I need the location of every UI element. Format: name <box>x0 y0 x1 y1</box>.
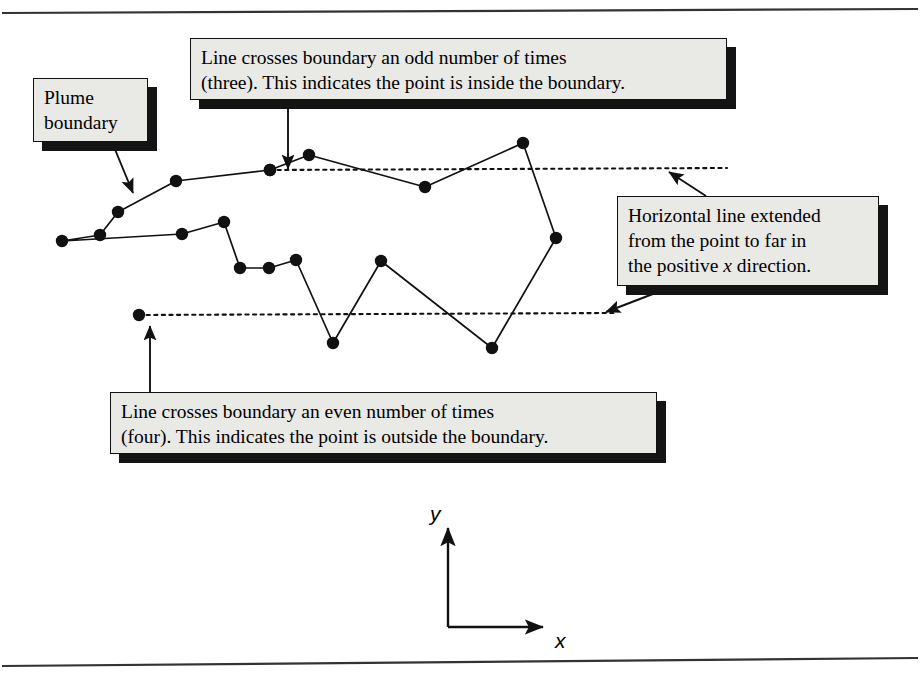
coordinate-axes <box>448 528 543 627</box>
boundary-vertex <box>517 137 529 149</box>
x-axis-label: x <box>555 629 566 653</box>
figure-container: Plume boundary Line crosses boundary an … <box>0 0 920 675</box>
horizontal-line-callout-line2: from the point to far in <box>628 230 806 251</box>
boundary-vertex <box>375 255 387 267</box>
horizontal-line-callout-line3-post: direction. <box>732 255 811 276</box>
boundary-vertex <box>112 206 124 218</box>
inside-test-ray <box>270 168 727 170</box>
boundary-vertex <box>550 232 562 244</box>
boundary-vertex <box>94 229 106 241</box>
boundary-vertex <box>419 181 431 193</box>
outside-test-ray <box>139 313 616 315</box>
boundary-vertex <box>176 228 188 240</box>
horizontal-line-callout-axis-symbol: x <box>723 255 732 276</box>
boundary-vertex <box>327 337 339 349</box>
boundary-vertex <box>486 342 498 354</box>
boundary-vertex <box>234 262 246 274</box>
horizontal-line-leader-top <box>669 172 706 196</box>
y-axis-label: y <box>430 502 441 526</box>
boundary-vertex <box>263 262 275 274</box>
boundary-vertex <box>290 254 302 266</box>
horizontal-line-callout-line1: Horizontal line extended <box>628 205 821 226</box>
plume-boundary-leader <box>114 147 133 193</box>
boundary-vertex <box>303 149 315 161</box>
boundary-vertex <box>56 235 68 247</box>
odd-crossings-callout: Line crosses boundary an odd number of t… <box>190 38 727 100</box>
boundary-vertex <box>218 216 230 228</box>
even-crossings-callout: Line crosses boundary an even number of … <box>110 392 657 454</box>
horizontal-line-callout-line3-pre: the positive <box>628 255 723 276</box>
horizontal-line-leader-bottom <box>606 292 658 312</box>
plume-boundary-callout: Plume boundary <box>33 78 148 142</box>
boundary-vertex <box>170 175 182 187</box>
horizontal-line-callout: Horizontal line extended from the point … <box>617 196 879 286</box>
